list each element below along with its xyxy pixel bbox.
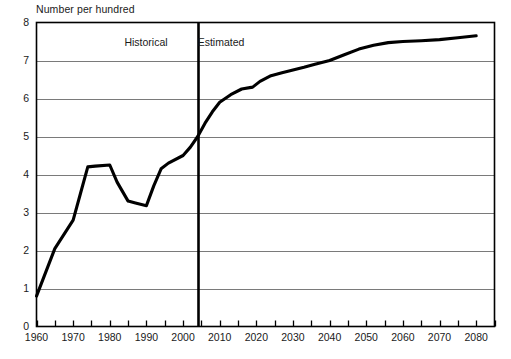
y-axis-tick-label-7: 7 [7,54,29,66]
x-axis-tick-label-2080: 2080 [456,331,496,343]
x-axis-tick-label-1990: 1990 [126,331,166,343]
series-line-0 [37,36,477,296]
gridlines-group [37,62,495,290]
x-axis-tick-label-2020: 2020 [236,331,276,343]
x-axis-tick-label-2040: 2040 [310,331,350,343]
x-axis-tick-label-2050: 2050 [346,331,386,343]
plot-area [0,0,511,359]
y-axis-tick-label-8: 8 [7,16,29,28]
x-axis-tick-label-2010: 2010 [200,331,240,343]
x-axis-tick-label-1970: 1970 [53,331,93,343]
x-axis-tick-label-2060: 2060 [383,331,423,343]
y-axis-tick-label-5: 5 [7,130,29,142]
estimated-label: Estimated [198,36,245,48]
data-series-group [37,36,477,296]
y-axis-tick-label-4: 4 [7,168,29,180]
x-axis-tick-label-1960: 1960 [17,331,57,343]
x-axis-tick-label-2030: 2030 [273,331,313,343]
y-axis-tick-label-2: 2 [7,244,29,256]
x-axis-tick-label-2000: 2000 [163,331,203,343]
x-axis-ticks [38,321,496,327]
y-axis-tick-label-1: 1 [7,282,29,294]
axes-frame [37,23,495,327]
y-axis-tick-label-3: 3 [7,206,29,218]
x-axis-tick-label-1980: 1980 [90,331,130,343]
chart-container: Number per hundred 012345678 19601970198… [0,0,511,359]
y-axis-tick-label-6: 6 [7,92,29,104]
historical-label: Historical [124,36,167,48]
x-axis-tick-label-2070: 2070 [420,331,460,343]
